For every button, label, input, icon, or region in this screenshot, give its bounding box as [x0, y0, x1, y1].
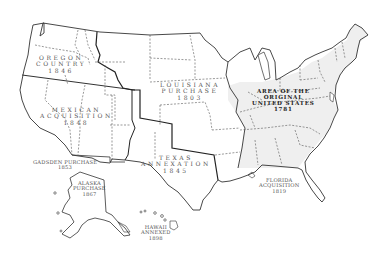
- label-louisiana-purchase: LOUISIANAPURCHASE1803: [160, 82, 220, 101]
- label-original-united-states: AREA OF THEORIGINALUNITED STATES1781: [252, 89, 315, 112]
- label-hawaii-annexed: HAWAIIANNEXED1898: [141, 225, 171, 241]
- texas-boundary: [125, 90, 135, 160]
- label-alaska-purchase: ALASKAPURCHASE1867: [73, 181, 106, 197]
- us-territorial-map: [0, 0, 389, 259]
- label-mexican-acquisition: MEXICANACQUISITION1848: [40, 107, 113, 126]
- label-florida-acquisition: FLORIDAACQUISITION1819: [259, 178, 300, 194]
- chesapeake: [330, 92, 334, 102]
- label-oregon-country: OREGONCOUNTRY1846: [36, 55, 86, 74]
- alaska-islands: [54, 192, 130, 232]
- label-texas-annexation: TEXASANNEXATION1845: [141, 155, 211, 174]
- oregon-boundary: [22, 75, 135, 90]
- label-gadsden-purchase: GADSDEN PURCHASE1853: [33, 160, 97, 171]
- lake-michigan: [258, 52, 270, 80]
